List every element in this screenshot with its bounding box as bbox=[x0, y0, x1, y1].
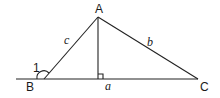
side-c bbox=[44, 17, 98, 79]
side-label-a: a bbox=[105, 79, 111, 93]
triangle-diagram: A B C a b c 1 bbox=[0, 0, 220, 98]
vertex-label-a: A bbox=[95, 2, 103, 16]
angle-label-1: 1 bbox=[33, 61, 40, 75]
side-label-c: c bbox=[64, 33, 70, 47]
side-label-b: b bbox=[147, 35, 153, 49]
right-angle-marker bbox=[98, 74, 103, 79]
vertex-label-b: B bbox=[26, 80, 34, 94]
vertex-label-c: C bbox=[200, 80, 209, 94]
